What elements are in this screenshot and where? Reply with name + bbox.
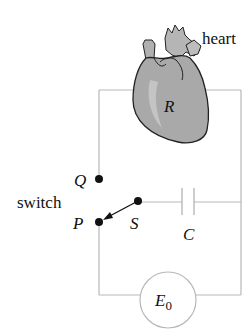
circuit-diagram: C E0 heart R Q P S switch <box>0 0 247 335</box>
switch-arrowhead-icon <box>103 212 113 220</box>
heart-icon <box>133 25 208 143</box>
heart-label: heart <box>202 29 236 48</box>
node-p-dot <box>95 218 103 226</box>
capacitor-label: C <box>183 225 195 244</box>
resistor-label: R <box>163 97 175 116</box>
node-s-label: S <box>130 214 139 233</box>
node-p-label: P <box>72 214 83 233</box>
capacitor <box>182 188 194 215</box>
node-q-label: Q <box>74 171 86 190</box>
switch-label: switch <box>17 193 62 212</box>
node-q-dot <box>95 175 103 183</box>
